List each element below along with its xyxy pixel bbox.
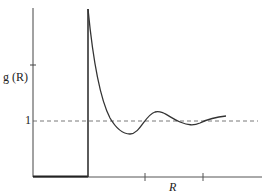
y-tick-label-1: 1 bbox=[25, 113, 31, 128]
chart-plot bbox=[0, 0, 265, 195]
x-axis-label: R bbox=[169, 180, 176, 195]
y-axis-label: g (R) bbox=[3, 70, 28, 85]
rdf-chart: g (R) 1 R bbox=[0, 0, 265, 195]
gr-curve bbox=[88, 9, 226, 134]
